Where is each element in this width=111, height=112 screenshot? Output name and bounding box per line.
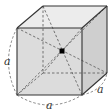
- centre-point: [60, 49, 65, 54]
- depth-edge-label: a: [97, 83, 104, 96]
- left-edge-label: a: [4, 55, 11, 68]
- cube-diagram: a a a: [0, 0, 111, 112]
- bottom-edge-label: a: [46, 99, 53, 112]
